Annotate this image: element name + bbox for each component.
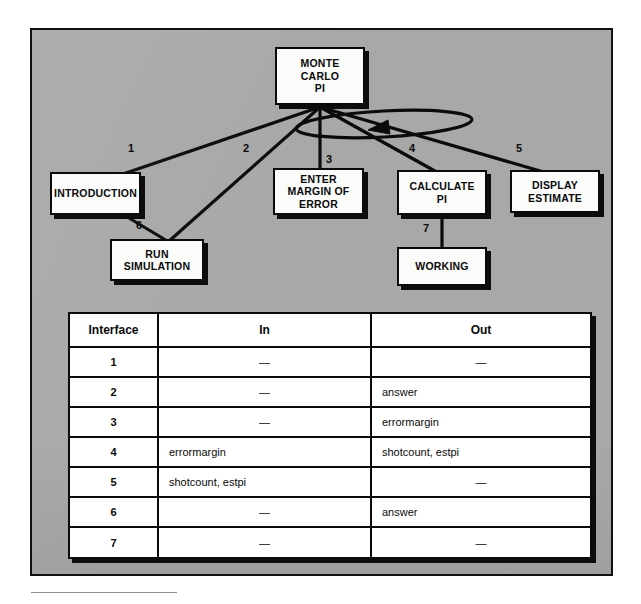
cell-interface: 6 bbox=[70, 497, 158, 527]
figure-structure-chart: MONTE CARLO PI INTRODUCTION RUN SIMULATI… bbox=[0, 0, 641, 604]
cell-out: answer bbox=[371, 377, 590, 407]
cell-out: answer bbox=[371, 497, 590, 527]
structure-chart-diagram: MONTE CARLO PI INTRODUCTION RUN SIMULATI… bbox=[32, 30, 615, 316]
node-label: CALCULATE PI bbox=[405, 180, 478, 205]
node-enter-margin-of-error[interactable]: ENTER MARGIN OF ERROR bbox=[273, 168, 364, 215]
node-label: ENTER MARGIN OF ERROR bbox=[284, 173, 354, 211]
table-row: 5 shotcount, estpi — bbox=[70, 467, 590, 497]
cell-interface: 3 bbox=[70, 407, 158, 437]
table-row: 4 errormargin shotcount, estpi bbox=[70, 437, 590, 467]
node-monte-carlo-pi[interactable]: MONTE CARLO PI bbox=[275, 47, 365, 105]
interface-number-5: 5 bbox=[516, 143, 522, 154]
column-header-in: In bbox=[158, 314, 371, 347]
edge-root-display-estimate bbox=[320, 107, 554, 175]
cell-interface: 2 bbox=[70, 377, 158, 407]
cell-interface: 1 bbox=[70, 347, 158, 377]
table-header-row: Interface In Out bbox=[70, 314, 590, 347]
cell-in: shotcount, estpi bbox=[158, 467, 371, 497]
table-row: 2 — answer bbox=[70, 377, 590, 407]
cell-out: — bbox=[371, 467, 590, 497]
node-label: INTRODUCTION bbox=[50, 187, 141, 200]
node-label: DISPLAY ESTIMATE bbox=[524, 179, 586, 204]
edge-root-introduction bbox=[120, 107, 320, 175]
edge-root-calculate-pi bbox=[320, 107, 442, 175]
cell-in: — bbox=[158, 527, 371, 557]
cell-out: — bbox=[371, 347, 590, 377]
caption-divider-rule bbox=[31, 592, 177, 593]
node-label: WORKING bbox=[411, 260, 472, 273]
cell-interface: 4 bbox=[70, 437, 158, 467]
cell-in: — bbox=[158, 347, 371, 377]
node-label: RUN SIMULATION bbox=[120, 248, 195, 273]
interface-number-4: 4 bbox=[409, 143, 415, 154]
interface-table: Interface In Out 1 — — 2 — answer bbox=[70, 314, 590, 557]
interface-number-7: 7 bbox=[423, 223, 429, 234]
cell-in: — bbox=[158, 377, 371, 407]
column-header-interface: Interface bbox=[70, 314, 158, 347]
cell-in: errormargin bbox=[158, 437, 371, 467]
cell-interface: 5 bbox=[70, 467, 158, 497]
interface-number-2: 2 bbox=[243, 143, 249, 154]
interface-number-6: 6 bbox=[136, 220, 142, 231]
interface-table-container: Interface In Out 1 — — 2 — answer bbox=[68, 312, 592, 559]
node-calculate-pi[interactable]: CALCULATE PI bbox=[397, 170, 487, 215]
table-row: 1 — — bbox=[70, 347, 590, 377]
cell-in: — bbox=[158, 497, 371, 527]
cell-out: — bbox=[371, 527, 590, 557]
interface-number-1: 1 bbox=[128, 143, 134, 154]
node-run-simulation[interactable]: RUN SIMULATION bbox=[110, 239, 204, 281]
interface-number-3: 3 bbox=[326, 154, 332, 165]
cell-out: errormargin bbox=[371, 407, 590, 437]
node-label: MONTE CARLO PI bbox=[297, 57, 344, 95]
table-row: 7 — — bbox=[70, 527, 590, 557]
node-introduction[interactable]: INTRODUCTION bbox=[50, 172, 141, 215]
cell-in: — bbox=[158, 407, 371, 437]
cell-interface: 7 bbox=[70, 527, 158, 557]
node-display-estimate[interactable]: DISPLAY ESTIMATE bbox=[510, 170, 600, 213]
diagram-panel: MONTE CARLO PI INTRODUCTION RUN SIMULATI… bbox=[30, 28, 613, 576]
cell-out: shotcount, estpi bbox=[371, 437, 590, 467]
table-row: 3 — errormargin bbox=[70, 407, 590, 437]
node-working[interactable]: WORKING bbox=[397, 247, 487, 286]
edge-introduction-run-simulation bbox=[124, 215, 169, 242]
column-header-out: Out bbox=[371, 314, 590, 347]
table-row: 6 — answer bbox=[70, 497, 590, 527]
